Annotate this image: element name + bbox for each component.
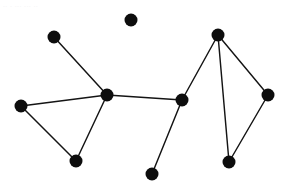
graph-edge <box>218 35 268 95</box>
graph-node[interactable] <box>125 14 138 27</box>
graph-edge <box>54 37 107 95</box>
graph-node[interactable] <box>223 156 236 169</box>
graph-edge <box>152 100 182 174</box>
graph-figure: .. . ... ... .. <box>0 0 289 194</box>
graph-node[interactable] <box>48 31 61 44</box>
graph-node[interactable] <box>176 94 189 107</box>
graph-edge <box>229 95 268 162</box>
edge-layer <box>21 35 268 174</box>
graph-canvas <box>0 0 289 194</box>
graph-node[interactable] <box>15 100 28 113</box>
graph-node[interactable] <box>70 155 83 168</box>
graph-edge <box>76 95 107 161</box>
graph-edge <box>21 106 76 161</box>
graph-edge <box>218 35 229 162</box>
graph-node[interactable] <box>212 29 225 42</box>
graph-edge <box>21 95 107 106</box>
graph-node[interactable] <box>262 89 275 102</box>
graph-node[interactable] <box>101 89 114 102</box>
graph-node[interactable] <box>146 168 159 181</box>
graph-edge <box>107 95 182 100</box>
graph-edge <box>182 35 218 100</box>
